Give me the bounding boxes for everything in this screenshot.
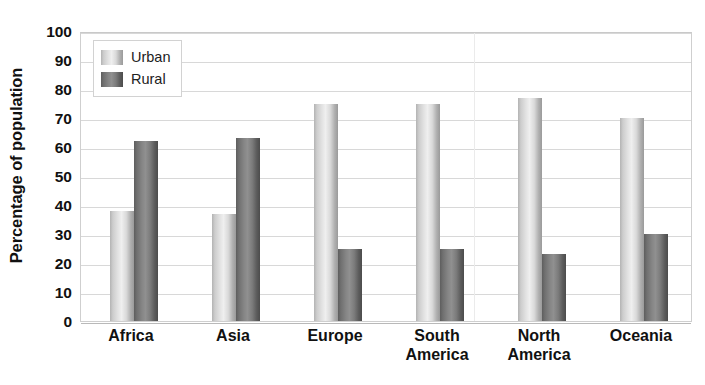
bar-urban — [212, 214, 236, 321]
bar-group — [620, 33, 668, 321]
bar-rural — [134, 141, 158, 321]
legend-item-rural: Rural — [101, 68, 171, 90]
x-tick-label: Oceania — [590, 326, 692, 345]
y-tick-label-100: 100 — [46, 23, 72, 41]
x-tick-label: North America — [488, 326, 590, 364]
bar-urban — [518, 98, 542, 321]
bar-urban — [110, 211, 134, 321]
y-tick-label-70: 70 — [55, 110, 72, 128]
bar-group — [416, 33, 464, 321]
x-tick-label: South America — [386, 326, 488, 364]
legend-label-urban: Urban — [131, 49, 171, 65]
legend: Urban Rural — [93, 40, 182, 97]
legend-label-rural: Rural — [131, 71, 166, 87]
y-tick-label-30: 30 — [55, 226, 72, 244]
bar-rural — [440, 249, 464, 322]
y-axis-title: Percentage of population — [0, 0, 34, 330]
y-tick-label-80: 80 — [55, 81, 72, 99]
y-tick-label-90: 90 — [55, 52, 72, 70]
y-tick-label-20: 20 — [55, 255, 72, 273]
bar-urban — [620, 118, 644, 321]
bar-rural — [236, 138, 260, 321]
gridline-0 — [81, 323, 691, 324]
legend-swatch-urban-icon — [101, 50, 123, 65]
legend-item-urban: Urban — [101, 46, 171, 68]
y-axis-title-label: Percentage of population — [8, 67, 27, 263]
bar-group — [518, 33, 566, 321]
y-tick-label-50: 50 — [55, 168, 72, 186]
bar-chart: Percentage of population 100908070605040… — [0, 0, 705, 385]
bar-rural — [338, 249, 362, 322]
bar-rural — [644, 234, 668, 321]
x-axis-tick-labels: AfricaAsiaEuropeSouth AmericaNorth Ameri… — [80, 326, 692, 384]
x-tick-label: Europe — [284, 326, 386, 345]
bar-rural — [542, 254, 566, 321]
bar-group — [212, 33, 260, 321]
x-tick-label: Africa — [80, 326, 182, 345]
bar-urban — [314, 104, 338, 322]
y-tick-label-60: 60 — [55, 139, 72, 157]
x-tick-label: Asia — [182, 326, 284, 345]
legend-swatch-rural-icon — [101, 72, 123, 87]
bar-group — [314, 33, 362, 321]
y-tick-label-0: 0 — [63, 313, 72, 331]
bar-urban — [416, 104, 440, 322]
y-axis-tick-labels: 1009080706050403020100 — [34, 32, 78, 322]
y-tick-label-40: 40 — [55, 197, 72, 215]
y-tick-label-10: 10 — [55, 284, 72, 302]
